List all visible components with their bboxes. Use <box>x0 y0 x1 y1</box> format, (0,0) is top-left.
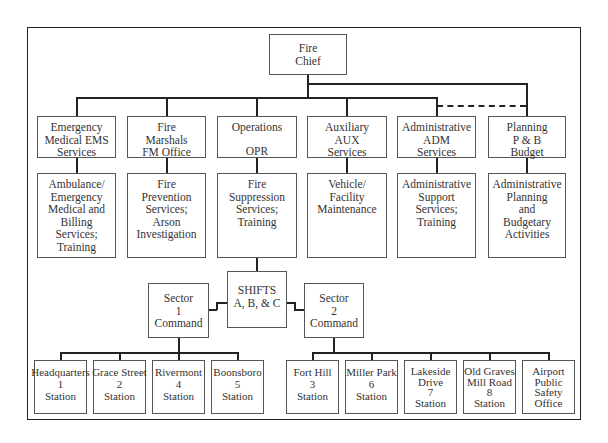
box-text: Boonsboro <box>213 366 261 378</box>
box-text: Activities <box>505 228 550 241</box>
box-text: Services <box>328 146 367 159</box>
connector <box>60 352 238 354</box>
box-text: Budgetary <box>503 216 551 229</box>
function-operations: Fire Suppression Services; Training <box>217 173 297 258</box>
connector <box>294 309 304 311</box>
function-ems: Ambulance/ Emergency Medical and Billing… <box>37 173 116 258</box>
sector-2-command: Sector 2 Command <box>304 283 364 338</box>
box-text: Services <box>417 146 456 159</box>
box-text: Services; <box>236 203 278 216</box>
connector <box>166 157 168 173</box>
station-lakeside-drive-7: Lakeside Drive 7 Station <box>404 360 457 414</box>
connector <box>346 97 348 116</box>
box-text: Training <box>417 216 456 229</box>
box-text: Airport <box>532 366 564 377</box>
box-text: Prevention <box>142 191 192 204</box>
box-text: Station <box>222 390 253 402</box>
station-old-graves-mill-road-8: Old Graves Mill Road 8 Station <box>463 360 516 414</box>
box-text: Command <box>155 317 203 330</box>
box-text: Station <box>104 390 135 402</box>
box-text: Fire <box>248 178 267 191</box>
airport-public-safety-office: Airport Public Safety Office <box>522 360 575 414</box>
station-rivermont-4: Rivermont 4 Station <box>152 360 205 414</box>
box-text: Rivermont <box>155 366 202 378</box>
box-text: Station <box>474 398 505 409</box>
box-text: A, B, & C <box>234 297 281 310</box>
box-text: Fire <box>157 178 176 191</box>
station-fort-hill-3: Fort Hill 3 Station <box>286 360 339 414</box>
function-planning: Administrative Planning and Budgetary Ac… <box>488 173 566 258</box>
division-administrative: Administrative ADM Services <box>397 116 476 158</box>
station-boonsboro-5: Boonsboro 5 Station <box>211 360 264 414</box>
box-text: Services; <box>55 228 97 241</box>
box-text: Medical EMS <box>44 134 108 147</box>
connector <box>307 74 309 98</box>
box-text: Services <box>57 146 96 159</box>
box-text: Miller Park <box>346 366 396 378</box>
box-text: and <box>519 203 536 216</box>
box-text: ADM <box>423 134 450 147</box>
box-text: Services; <box>415 203 457 216</box>
division-planning: Planning P & B Budget <box>488 116 566 158</box>
connector <box>76 97 78 116</box>
connector <box>333 337 335 353</box>
box-text: Auxiliary <box>325 121 369 134</box>
connector <box>237 352 239 360</box>
box-text: Safety <box>534 387 562 398</box>
box-text: 2 <box>331 305 337 318</box>
box-text: Emergency <box>50 191 102 204</box>
function-auxiliary: Vehicle/ Facility Maintenance <box>307 173 387 258</box>
box-text: Facility <box>329 191 364 204</box>
box-text: Station <box>297 390 328 402</box>
box-text: 8 <box>487 387 493 398</box>
box-text: Old Graves <box>464 366 514 377</box>
box-text: Station <box>163 390 194 402</box>
box-text: Planning <box>507 191 548 204</box>
station-headquarters-1: Headquarters 1 Station <box>34 360 87 414</box>
box-text: Sector <box>319 292 348 305</box>
box-text: Services; <box>145 203 187 216</box>
station-grace-street-2: Grace Street 2 Station <box>93 360 146 414</box>
station-miller-park-6: Miller Park 6 Station <box>345 360 398 414</box>
box-text: AUX <box>335 134 360 147</box>
function-fire-marshals: Fire Prevention Services; Arson Investig… <box>127 173 206 258</box>
box-text: Vehicle/ <box>328 178 366 191</box>
connector <box>430 352 432 360</box>
box-text: 1 <box>176 305 182 318</box>
division-ems: Emergency Medical EMS Services <box>37 116 116 158</box>
box-text: Headquarters <box>31 366 90 378</box>
box-text: Office <box>535 398 563 409</box>
connector <box>312 352 314 360</box>
box-text: Emergency <box>50 121 102 134</box>
box-text: 6 <box>369 378 375 390</box>
connector <box>119 352 121 360</box>
connector <box>371 352 373 360</box>
connector <box>526 83 528 116</box>
division-fire-marshals: Fire Marshals FM Office <box>127 116 206 158</box>
box-text: Medical and <box>48 203 105 216</box>
box-text: Sector <box>164 292 193 305</box>
connector <box>548 352 550 360</box>
connector <box>178 352 180 360</box>
connector <box>166 97 168 116</box>
box-text: Command <box>310 317 358 330</box>
box-text: 2 <box>117 378 123 390</box>
box-text: Administrative <box>402 121 471 134</box>
box-text: 7 <box>428 387 434 398</box>
box-text: Training <box>237 216 276 229</box>
box-text: Maintenance <box>317 203 376 216</box>
box-text: Planning <box>507 121 548 134</box>
box-text: Ambulance/ <box>48 178 104 191</box>
box-text: Support <box>418 191 454 204</box>
box-text: Fire <box>157 121 176 134</box>
box-text: Training <box>57 241 96 254</box>
dashed-connector <box>437 105 526 107</box>
box-text: Operations <box>232 121 282 134</box>
box-text: Station <box>45 390 76 402</box>
box-text: 1 <box>58 378 64 390</box>
sector-1-command: Sector 1 Command <box>148 283 209 338</box>
division-auxiliary: Auxiliary AUX Services <box>307 116 387 158</box>
box-text: Chief <box>295 55 321 68</box>
box-text: P & B <box>513 134 541 147</box>
box-text: SHIFTS <box>238 284 276 297</box>
